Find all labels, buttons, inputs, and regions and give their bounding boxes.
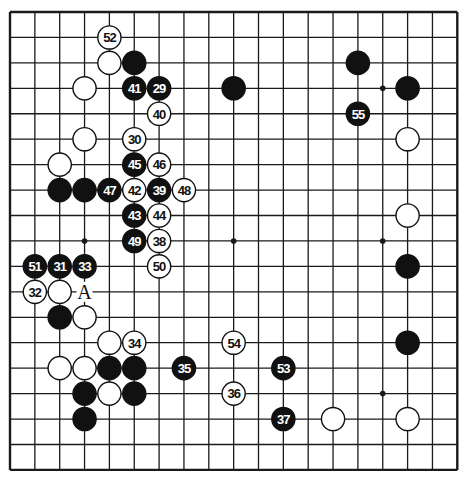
move-number: 35 xyxy=(178,361,191,376)
white-stone xyxy=(98,382,121,405)
black-stone-53: 53 xyxy=(272,357,295,380)
move-number: 38 xyxy=(153,234,166,249)
black-stone-33: 33 xyxy=(73,255,96,278)
stone-disc xyxy=(346,51,369,74)
white-stone-40: 40 xyxy=(148,102,171,125)
white-stone xyxy=(73,357,96,380)
stone-disc xyxy=(321,407,344,430)
white-stone-36: 36 xyxy=(222,382,245,405)
stone-disc xyxy=(48,153,71,176)
star-point xyxy=(380,391,386,397)
point-mark-label: A xyxy=(77,281,92,303)
stone-disc xyxy=(396,204,419,227)
white-stone-42: 42 xyxy=(123,178,146,201)
stone-disc xyxy=(98,357,121,380)
move-number: 46 xyxy=(153,157,166,172)
white-stone xyxy=(73,128,96,151)
stone-disc xyxy=(396,255,419,278)
white-stone xyxy=(48,357,71,380)
move-number: 33 xyxy=(78,259,91,274)
move-number: 43 xyxy=(128,208,141,223)
black-stone-55: 55 xyxy=(346,102,369,125)
move-number: 45 xyxy=(128,157,141,172)
stone-disc xyxy=(396,331,419,354)
black-stone xyxy=(346,51,369,74)
move-number: 51 xyxy=(29,259,42,274)
move-number: 52 xyxy=(103,30,116,45)
white-stone xyxy=(98,331,121,354)
move-number: 37 xyxy=(277,412,290,427)
black-stone xyxy=(48,178,71,201)
white-stone-46: 46 xyxy=(148,153,171,176)
move-number: 50 xyxy=(153,259,166,274)
black-stone xyxy=(48,306,71,329)
white-stone-38: 38 xyxy=(148,229,171,252)
go-board: 5241294030454647423948434449385131335032… xyxy=(0,0,468,491)
move-number: 30 xyxy=(128,132,141,147)
white-stone-30: 30 xyxy=(123,128,146,151)
white-stone xyxy=(396,204,419,227)
black-stone xyxy=(123,382,146,405)
move-number: 32 xyxy=(29,285,42,300)
black-stone xyxy=(73,178,96,201)
white-stone-52: 52 xyxy=(98,26,121,49)
white-stone-50: 50 xyxy=(148,255,171,278)
white-stone xyxy=(48,153,71,176)
stone-disc xyxy=(98,331,121,354)
black-stone-49: 49 xyxy=(123,229,146,252)
black-stone xyxy=(222,77,245,100)
black-stone-51: 51 xyxy=(23,255,46,278)
white-stone-34: 34 xyxy=(123,331,146,354)
star-point xyxy=(82,238,88,244)
white-stone xyxy=(48,280,71,303)
stone-disc xyxy=(73,407,96,430)
black-stone xyxy=(396,331,419,354)
black-stone-41: 41 xyxy=(123,77,146,100)
stone-disc xyxy=(73,382,96,405)
black-stone-31: 31 xyxy=(48,255,71,278)
black-stone xyxy=(396,255,419,278)
white-stone xyxy=(396,407,419,430)
move-number: 34 xyxy=(128,336,142,351)
white-stone xyxy=(98,51,121,74)
move-number: 44 xyxy=(153,208,167,223)
move-number: 42 xyxy=(128,183,141,198)
black-stone-35: 35 xyxy=(172,357,195,380)
stone-disc xyxy=(48,306,71,329)
move-number: 53 xyxy=(277,361,290,376)
move-number: 39 xyxy=(153,183,166,198)
stone-disc xyxy=(73,128,96,151)
white-stone xyxy=(321,407,344,430)
black-stone xyxy=(123,51,146,74)
move-number: 40 xyxy=(153,107,166,122)
move-number: 54 xyxy=(227,336,241,351)
stone-disc xyxy=(73,306,96,329)
stone-disc xyxy=(396,407,419,430)
black-stone-29: 29 xyxy=(148,77,171,100)
stone-disc xyxy=(48,280,71,303)
white-stone-32: 32 xyxy=(23,280,46,303)
white-stone xyxy=(396,128,419,151)
star-point xyxy=(380,238,386,244)
move-number: 55 xyxy=(352,107,365,122)
move-number: 36 xyxy=(227,386,240,401)
star-point xyxy=(231,238,237,244)
black-stone xyxy=(396,77,419,100)
stone-disc xyxy=(73,178,96,201)
stone-disc xyxy=(73,357,96,380)
stone-disc xyxy=(123,357,146,380)
move-number: 31 xyxy=(53,259,66,274)
white-stone-48: 48 xyxy=(172,178,195,201)
move-number: 48 xyxy=(178,183,191,198)
black-stone xyxy=(98,357,121,380)
white-stone xyxy=(73,306,96,329)
white-stone-44: 44 xyxy=(148,204,171,227)
black-stone-37: 37 xyxy=(272,407,295,430)
stone-disc xyxy=(98,51,121,74)
stone-disc xyxy=(123,51,146,74)
stone-disc xyxy=(123,382,146,405)
white-stone-54: 54 xyxy=(222,331,245,354)
stone-disc xyxy=(48,178,71,201)
move-number: 41 xyxy=(128,81,141,96)
white-stone xyxy=(73,77,96,100)
